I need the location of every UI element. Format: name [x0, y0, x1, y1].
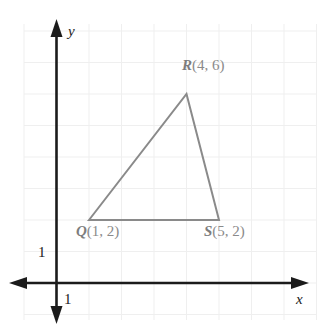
x-axis — [9, 277, 309, 289]
point-label-s: S(5, 2) — [204, 224, 245, 239]
point-coords-r: (4, 6) — [192, 57, 225, 73]
y-axis-label: y — [68, 24, 75, 39]
y-axis-unit-label: 1 — [38, 245, 46, 260]
y-axis — [51, 19, 63, 324]
point-label-r: R(4, 6) — [182, 58, 225, 73]
point-label-q: Q(1, 2) — [76, 224, 119, 239]
point-name-r: R — [182, 57, 192, 73]
point-name-q: Q — [76, 223, 87, 239]
coordinate-plane-figure: R(4, 6) Q(1, 2) S(5, 2) y x 1 1 — [0, 0, 320, 333]
y-axis-up-arrow — [51, 19, 63, 37]
x-axis-label: x — [296, 292, 303, 307]
point-coords-q: (1, 2) — [87, 223, 120, 239]
coordinate-plane-svg — [0, 0, 320, 333]
x-axis-left-arrow — [9, 277, 27, 289]
x-axis-unit-label: 1 — [64, 292, 72, 307]
point-coords-s: (5, 2) — [212, 223, 245, 239]
grid-lines — [24, 24, 317, 320]
x-axis-right-arrow — [291, 277, 309, 289]
